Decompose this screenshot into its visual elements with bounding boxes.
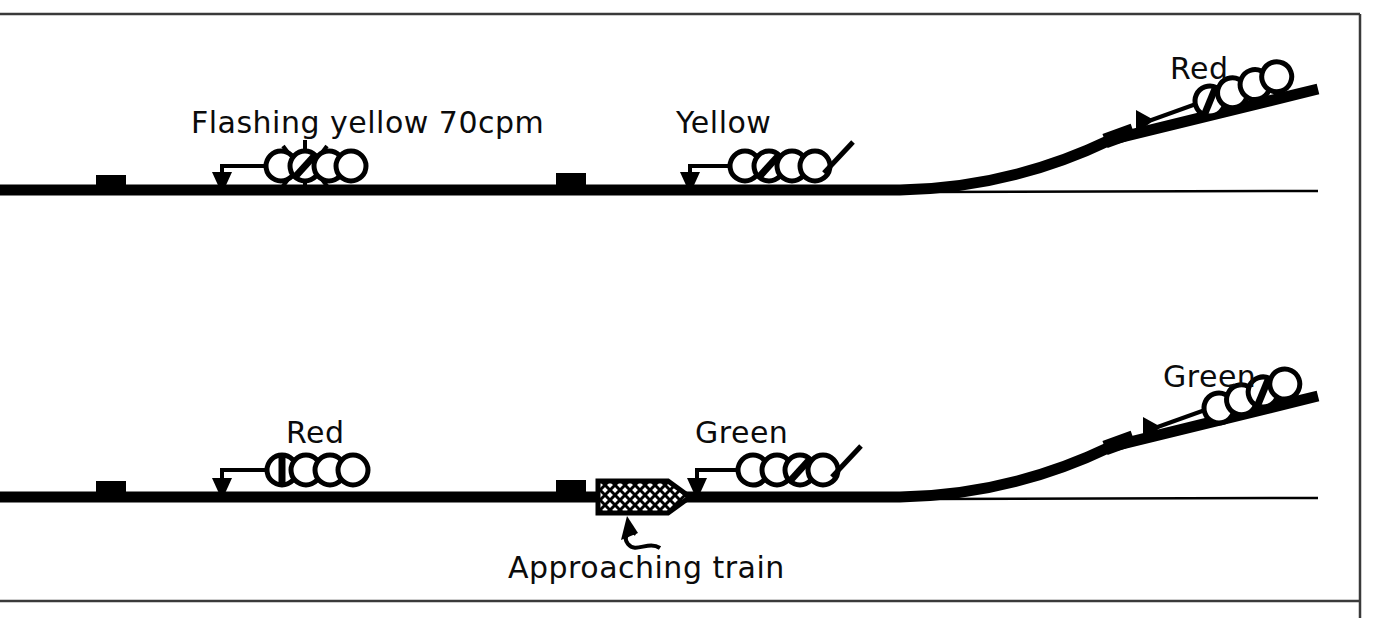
diagram-canvas: Flashing yellow 70cpm Yellow	[0, 0, 1387, 632]
track-marker	[1102, 124, 1135, 148]
train-icon[interactable]	[598, 481, 690, 513]
signal-flashing-yellow[interactable]: Flashing yellow 70cpm	[191, 105, 544, 194]
upper-turnout-route	[930, 191, 1318, 192]
track-marker	[96, 481, 126, 496]
signal-red-upper[interactable]: Red	[1136, 51, 1296, 134]
curly-arrow-icon	[621, 516, 660, 548]
signal-label-green-lower-right: Green	[1163, 359, 1256, 394]
lower-scenario: Approaching train Red	[0, 359, 1318, 585]
signal-label-red-upper: Red	[1170, 51, 1229, 86]
signal-label-yellow: Yellow	[675, 105, 771, 140]
lower-turnout-route	[930, 498, 1318, 499]
signal-lamp	[808, 455, 838, 485]
train-label: Approaching train	[508, 550, 785, 585]
track-marker	[1102, 431, 1135, 455]
signal-label-green-lower-mid: Green	[695, 415, 788, 450]
train-body	[598, 481, 690, 513]
track-marker	[96, 175, 126, 190]
signalling-diagram-figure: Flashing yellow 70cpm Yellow	[0, 0, 1387, 632]
signal-label-flashing-yellow: Flashing yellow 70cpm	[191, 105, 544, 140]
signal-lamp	[336, 151, 366, 181]
signal-green-lower-mid[interactable]: Green	[687, 415, 861, 500]
signal-lamp	[338, 455, 368, 485]
signal-red-lower[interactable]: Red	[212, 415, 368, 500]
signal-lamp	[800, 151, 830, 181]
signal-yellow[interactable]: Yellow	[675, 105, 853, 194]
track-marker	[556, 173, 586, 188]
signal-label-red-lower: Red	[286, 415, 345, 450]
upper-scenario: Flashing yellow 70cpm Yellow	[0, 51, 1318, 194]
track-marker	[556, 480, 586, 495]
